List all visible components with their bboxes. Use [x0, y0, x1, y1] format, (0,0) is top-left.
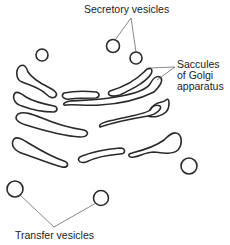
leader-saccule-1	[150, 67, 175, 68]
leader-transfer-1	[20, 195, 54, 227]
saccules-label-line-3: apparatus	[177, 81, 224, 92]
transfer-vesicles-label: Transfer vesicles	[15, 230, 94, 241]
secretory-vesicles-label: Secretory vesicles	[84, 4, 169, 15]
leader-secretory-2	[131, 18, 136, 52]
saccule-4-left	[12, 138, 67, 167]
leader-transfer-2	[54, 203, 96, 227]
vesicle-right	[181, 158, 197, 174]
saccule-4-mid	[79, 148, 125, 162]
leader-secretory-1	[115, 18, 131, 40]
saccule-2-mid	[62, 91, 99, 99]
secretory-vesicle-1	[107, 40, 120, 53]
saccule-1-right	[108, 68, 151, 96]
saccule-3-bulb	[148, 99, 169, 117]
golgi-diagram	[0, 0, 230, 245]
secretory-vesicle-2	[130, 52, 142, 64]
leader-saccule-2	[157, 67, 175, 80]
saccule-2-left	[14, 92, 57, 112]
saccules-label: Saccules of Golgi apparatus	[177, 59, 224, 92]
saccule-4-right	[129, 133, 181, 157]
transfer-vesicle-1	[7, 181, 23, 197]
saccule-3-left	[16, 113, 87, 137]
saccule-1-left	[17, 65, 57, 97]
vesicle-top-left	[36, 49, 48, 61]
